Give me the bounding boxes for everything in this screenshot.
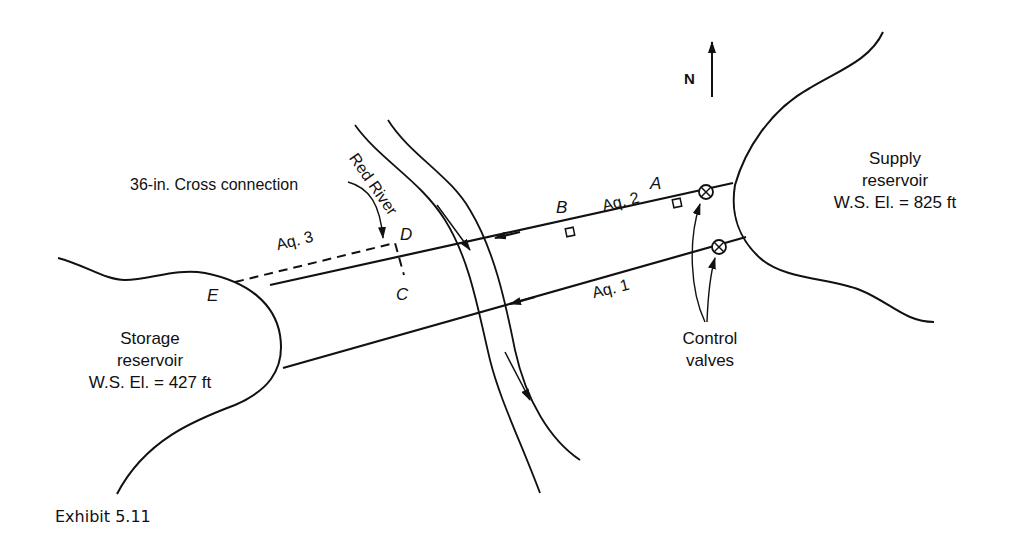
point-d-label: D — [400, 225, 412, 245]
point-c-label: C — [396, 285, 408, 305]
supply-reservoir-elevation: W.S. El. = 825 ft — [820, 192, 970, 214]
control-valves-label: Control valves — [660, 328, 760, 372]
valve-pointer-lower — [707, 258, 715, 322]
aqueduct-3-dashed-line — [235, 243, 404, 282]
storage-reservoir-name-line2: reservoir — [75, 350, 225, 372]
point-e-label: E — [207, 286, 218, 306]
red-river-west-bank — [355, 125, 540, 493]
storage-reservoir-elevation: W.S. El. = 427 ft — [75, 372, 225, 394]
control-valve-upper-icon — [699, 185, 713, 199]
supply-reservoir-name-line2: reservoir — [820, 170, 970, 192]
valve-pointer-upper — [692, 204, 705, 322]
control-valve-lower-icon — [712, 240, 726, 254]
storage-reservoir-name-line1: Storage — [75, 328, 225, 350]
diagram-canvas — [0, 0, 1024, 551]
point-a-marker — [672, 198, 681, 207]
cross-connection-label: 36-in. Cross connection — [130, 176, 298, 194]
river-flow-arrow-upper — [437, 205, 470, 250]
aqueduct-1-flow-arrow — [510, 297, 535, 304]
point-b-label: B — [556, 198, 567, 218]
aqueduct-2-line — [270, 183, 733, 285]
storage-reservoir-label: Storage reservoir W.S. El. = 427 ft — [75, 328, 225, 394]
exhibit-caption: Exhibit 5.11 — [55, 507, 151, 526]
point-a-label: A — [650, 174, 661, 194]
supply-reservoir-name-line1: Supply — [820, 148, 970, 170]
control-valves-line2: valves — [660, 350, 760, 372]
point-b-marker — [565, 227, 574, 236]
control-valves-line1: Control — [660, 328, 760, 350]
north-label: N — [684, 70, 695, 87]
red-river-east-bank — [388, 120, 580, 460]
supply-reservoir-label: Supply reservoir W.S. El. = 825 ft — [820, 148, 970, 214]
